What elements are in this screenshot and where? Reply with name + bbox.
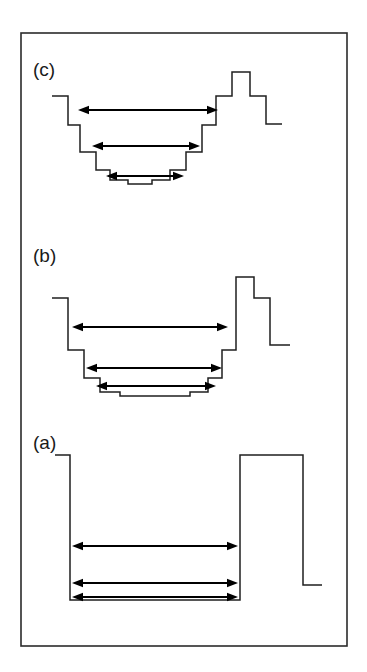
figure-root: (c)(b)(a)	[0, 0, 367, 672]
panel-b-label: (b)	[33, 245, 56, 266]
panel-c-label: (c)	[33, 59, 55, 80]
figure-background	[0, 0, 367, 672]
panel-a-label: (a)	[33, 432, 56, 453]
quantum-well-figure: (c)(b)(a)	[0, 0, 367, 672]
